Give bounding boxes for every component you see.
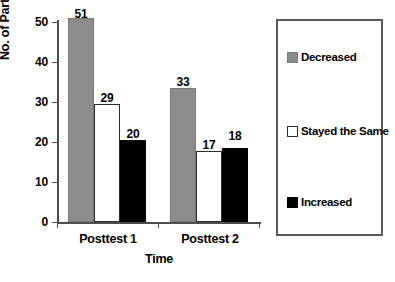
y-tick-label-50: 50 (22, 16, 48, 28)
legend-item-decreased: Decreased (287, 52, 356, 64)
legend-item-stayed-the-same: Stayed the Same (287, 126, 389, 138)
legend-swatch-stayed-the-same-icon (287, 126, 298, 137)
bar-value-posttest2-increased: 18 (219, 130, 251, 142)
legend-label-stayed-the-same: Stayed the Same (301, 126, 389, 138)
x-tick-end (259, 222, 260, 228)
x-axis-line (57, 222, 261, 224)
y-tick-label-30: 30 (22, 96, 48, 108)
bar-posttest2-stayed (196, 151, 222, 222)
bar-value-posttest2-decreased: 33 (167, 76, 199, 88)
y-tick-50 (52, 22, 57, 23)
plot-area: 51 29 20 33 17 18 Posttest 1 Posttest 2 … (57, 20, 261, 224)
bar-value-posttest1-increased: 20 (117, 128, 149, 140)
y-axis-line (57, 20, 59, 224)
y-tick-label-10: 10 (22, 176, 48, 188)
x-tick-start (57, 222, 58, 228)
bar-posttest2-decreased (170, 88, 196, 222)
y-axis-title: No. of Participants (0, 0, 12, 60)
bar-value-posttest1-stayed: 29 (91, 92, 123, 104)
y-tick-label-40: 40 (22, 56, 48, 68)
x-tick-mid (158, 222, 159, 228)
bar-posttest1-increased (120, 140, 146, 222)
y-tick-20 (52, 142, 57, 143)
x-group-label-posttest-1: Posttest 1 (63, 232, 153, 246)
x-group-label-posttest-2: Posttest 2 (165, 232, 255, 246)
legend-label-decreased: Decreased (301, 52, 356, 64)
y-tick-label-0: 0 (22, 216, 48, 228)
legend-swatch-increased-icon (287, 197, 298, 208)
bar-value-posttest1-decreased: 51 (65, 8, 97, 20)
bar-posttest1-decreased (68, 18, 94, 222)
y-tick-label-20: 20 (22, 136, 48, 148)
y-tick-30 (52, 102, 57, 103)
legend-item-increased: Increased (287, 197, 352, 209)
legend-label-increased: Increased (301, 197, 352, 209)
y-tick-10 (52, 182, 57, 183)
x-axis-title: Time (57, 252, 261, 266)
legend-swatch-decreased-icon (287, 52, 298, 63)
bar-posttest2-increased (222, 148, 248, 222)
y-tick-40 (52, 62, 57, 63)
bar-chart-figure: No. of Participants 50 40 30 20 10 0 51 … (0, 0, 395, 282)
bar-posttest1-stayed (94, 104, 120, 222)
legend-box: Decreased Stayed the Same Increased (276, 19, 383, 236)
